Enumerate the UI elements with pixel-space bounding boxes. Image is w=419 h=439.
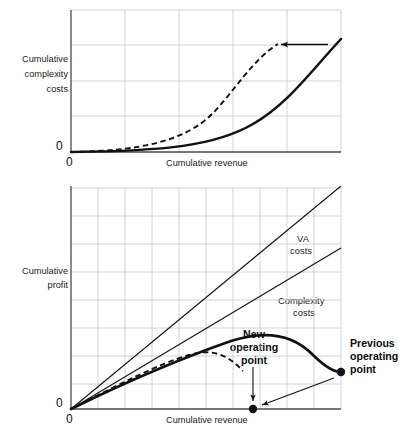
top-chart-series-before-dashed [71,44,278,152]
new-operating-point-dot [249,405,257,413]
chart-canvas [0,0,419,439]
previous-to-new-shift-arrow [262,378,334,405]
top-chart-series-after-solid [71,39,341,152]
figure-two-panel-complexity-costs: Cumulative complexity costs 0 0 Cumulati… [0,0,419,439]
top-chart-gridlines [71,10,341,152]
previous-operating-point-dot [337,368,345,376]
bottom-chart-series-old-profit-dashed [71,352,243,409]
